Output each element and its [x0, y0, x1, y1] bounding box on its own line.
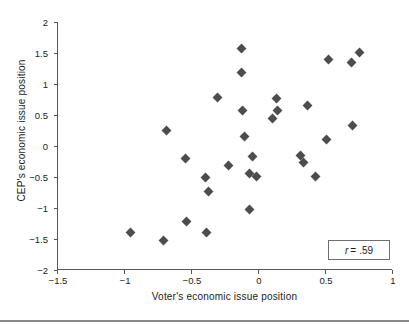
data-point: [302, 101, 312, 111]
correlation-symbol: r: [345, 245, 348, 256]
data-point: [223, 160, 233, 170]
x-axis-tick-label: −1: [120, 276, 131, 286]
data-point: [182, 216, 192, 226]
y-axis-tick-label: 0.5: [35, 111, 48, 121]
y-axis-tick-label: −1.5: [29, 235, 48, 245]
data-point: [200, 172, 210, 182]
data-point: [247, 152, 257, 162]
data-point: [324, 55, 334, 65]
x-axis-tick: 0: [258, 270, 259, 274]
data-point: [348, 121, 358, 131]
data-point: [162, 126, 172, 136]
data-point: [203, 187, 213, 197]
x-axis-tick-label: 0: [256, 276, 261, 286]
scatter-plot-figure: 21.510.50−0.5−1−1.5−2 −1.5−1−0.500.51 Vo…: [0, 0, 409, 324]
y-axis-tick-label: −0.5: [29, 173, 48, 183]
x-axis-tick-label: 0.5: [319, 276, 332, 286]
y-axis-tick-label: −1: [37, 204, 48, 214]
x-axis-tick: −1: [124, 270, 125, 274]
correlation-annotation-box: r = .59: [328, 240, 390, 260]
data-point: [213, 92, 223, 102]
x-axis-tick: −1.5: [57, 270, 58, 274]
data-point: [271, 94, 281, 104]
x-axis-tick-label: 1: [390, 276, 395, 286]
correlation-value: .59: [359, 245, 373, 256]
data-points-layer: [58, 22, 392, 269]
y-axis-tick-label: 2: [43, 18, 48, 28]
y-axis-tick-label: 1: [43, 80, 48, 90]
data-point: [321, 134, 331, 144]
x-axis-title: Voter's economic issue position: [57, 291, 392, 302]
data-point: [245, 205, 255, 215]
data-point: [310, 171, 320, 181]
data-point: [159, 236, 169, 246]
data-point: [239, 131, 249, 141]
x-axis-tick: −0.5: [191, 270, 192, 274]
data-point: [202, 227, 212, 237]
y-axis-title: CEP's economic issue position: [16, 31, 27, 231]
data-point: [347, 58, 357, 68]
data-point: [273, 106, 283, 116]
data-point: [237, 44, 247, 54]
data-point: [355, 47, 365, 57]
y-axis-tick-label: 0: [43, 142, 48, 152]
data-point: [180, 153, 190, 163]
correlation-operator: =: [350, 245, 356, 256]
x-axis-tick: 1: [392, 270, 393, 274]
y-axis-tick-label: −2: [37, 266, 48, 276]
data-point: [238, 106, 248, 116]
x-axis-tick: 0.5: [325, 270, 326, 274]
y-axis-tick-label: 1.5: [35, 49, 48, 59]
data-point: [237, 68, 247, 78]
data-point: [125, 227, 135, 237]
x-axis-tick-label: −1.5: [49, 276, 68, 286]
plot-area: 21.510.50−0.5−1−1.5−2: [57, 22, 392, 270]
page-bottom-rule: [0, 320, 409, 322]
x-axis-tick-label: −0.5: [183, 276, 202, 286]
